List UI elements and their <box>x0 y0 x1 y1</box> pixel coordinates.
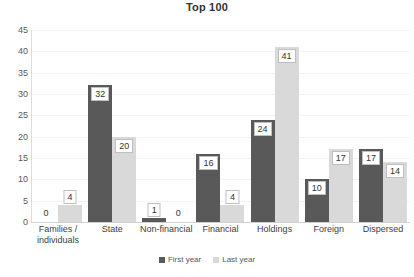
x-axis-label: Holdings <box>248 224 302 246</box>
x-axis-label: Families /individuals <box>31 224 85 246</box>
bar-pair: 1714 <box>356 30 410 222</box>
bar-value-label: 32 <box>91 87 109 101</box>
y-axis-tick-label: 20 <box>2 133 28 142</box>
bar-slot: 17 <box>359 30 383 222</box>
bar-groups: 04322010164244110171714 <box>31 30 410 222</box>
bar-slot: 16 <box>196 30 220 222</box>
bar-chart: Top 100 454035302520151050 0432201016424… <box>0 0 414 277</box>
bar-group: 10 <box>139 30 193 222</box>
x-axis-label: State <box>85 224 139 246</box>
bar-value-label: 16 <box>199 156 217 170</box>
y-axis-tick-label: 15 <box>2 154 28 163</box>
bar[interactable]: 32 <box>88 85 112 222</box>
bar-slot: 20 <box>112 30 136 222</box>
bar-value-label: 20 <box>115 139 133 153</box>
bar[interactable]: 24 <box>251 120 275 222</box>
bar-value-label: 41 <box>278 49 296 63</box>
legend-item[interactable]: First year <box>159 255 201 264</box>
bar-value-label: 0 <box>40 206 53 220</box>
y-axis-tick-label: 25 <box>2 111 28 120</box>
x-axis-line <box>31 222 410 223</box>
legend-item[interactable]: Last year <box>213 255 255 264</box>
bar-group: 164 <box>193 30 247 222</box>
x-axis-labels: Families /individualsStateNon-financialF… <box>31 224 410 246</box>
bar-value-label: 4 <box>226 190 239 204</box>
bar[interactable]: 41 <box>275 47 299 222</box>
bar-value-label: 4 <box>64 190 77 204</box>
chart-title: Top 100 <box>0 1 414 13</box>
bar-value-label: 0 <box>172 206 185 220</box>
bar[interactable]: 17 <box>359 149 383 222</box>
legend-label: Last year <box>222 255 255 264</box>
bar-pair: 10 <box>139 30 193 222</box>
bar[interactable]: 1 <box>142 218 166 222</box>
bar-value-label: 14 <box>386 164 404 178</box>
bar-group: 04 <box>31 30 85 222</box>
bar[interactable]: 20 <box>112 137 136 222</box>
bar-value-label: 10 <box>308 181 326 195</box>
y-axis: 454035302520151050 <box>0 0 28 277</box>
bar[interactable]: 10 <box>305 179 329 222</box>
bar-value-label: 1 <box>148 203 161 217</box>
bar-group: 1714 <box>356 30 410 222</box>
bar-slot: 41 <box>275 30 299 222</box>
bar-slot: 0 <box>34 30 58 222</box>
y-axis-tick-label: 40 <box>2 47 28 56</box>
bar-slot: 10 <box>305 30 329 222</box>
y-axis-tick-label: 30 <box>2 90 28 99</box>
bar-pair: 164 <box>193 30 247 222</box>
chart-legend: First yearLast year <box>0 255 414 264</box>
bar-group: 1017 <box>302 30 356 222</box>
bar-slot: 1 <box>142 30 166 222</box>
x-axis-label: Foreign <box>302 224 356 246</box>
legend-swatch-icon <box>159 257 165 263</box>
legend-swatch-icon <box>213 257 219 263</box>
y-axis-tick-label: 35 <box>2 69 28 78</box>
y-axis-tick-label: 10 <box>2 175 28 184</box>
bar-pair: 3220 <box>85 30 139 222</box>
bar[interactable]: 16 <box>196 154 220 222</box>
bar-slot: 17 <box>329 30 353 222</box>
bar[interactable]: 4 <box>58 205 82 222</box>
x-axis-label: Non-financial <box>139 224 193 246</box>
bar[interactable]: 4 <box>220 205 244 222</box>
bar-pair: 2441 <box>248 30 302 222</box>
y-axis-tick-label: 5 <box>2 197 28 206</box>
y-axis-tick-label: 45 <box>2 26 28 35</box>
x-axis-label: Financial <box>193 224 247 246</box>
bar-value-label: 17 <box>332 151 350 165</box>
y-axis-tick-label: 0 <box>2 218 28 227</box>
bar-slot: 4 <box>220 30 244 222</box>
x-axis-label: Dispersed <box>356 224 410 246</box>
bar-pair: 1017 <box>302 30 356 222</box>
bar-slot: 4 <box>58 30 82 222</box>
bar-value-label: 24 <box>254 122 272 136</box>
bar-value-label: 17 <box>362 151 380 165</box>
bar[interactable]: 14 <box>383 162 407 222</box>
bar-pair: 04 <box>31 30 85 222</box>
bar[interactable]: 17 <box>329 149 353 222</box>
bar-group: 3220 <box>85 30 139 222</box>
bar-slot: 0 <box>166 30 190 222</box>
bar-slot: 32 <box>88 30 112 222</box>
legend-label: First year <box>168 255 201 264</box>
bar-slot: 24 <box>251 30 275 222</box>
bar-group: 2441 <box>248 30 302 222</box>
bar-slot: 14 <box>383 30 407 222</box>
